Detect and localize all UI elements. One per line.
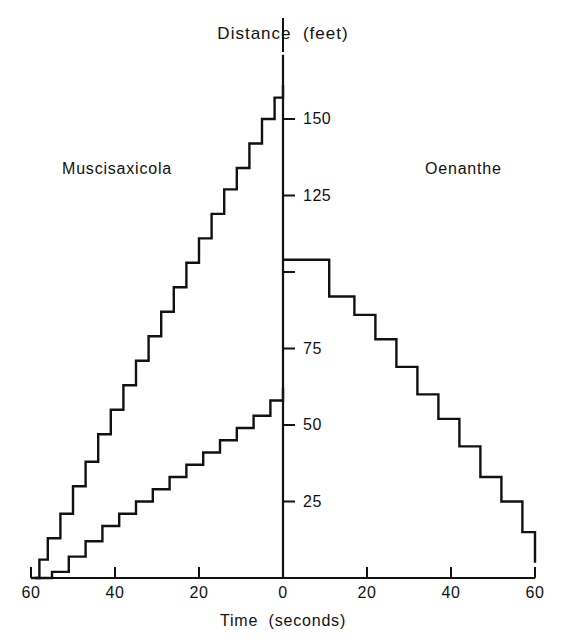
x-tick-label: 0 <box>278 584 287 602</box>
series-line <box>283 260 535 563</box>
chart-figure: Distance (feet) Muscisaxicola Oenanthe 6… <box>0 0 566 642</box>
series-line <box>31 85 283 578</box>
y-tick-label: 125 <box>303 187 331 205</box>
y-tick-label: 50 <box>303 416 322 434</box>
x-tick-label: 20 <box>358 584 377 602</box>
x-tick-label: 40 <box>442 584 461 602</box>
y-tick-label: 75 <box>303 340 322 358</box>
x-tick-label: 20 <box>190 584 209 602</box>
x-tick-label: 40 <box>106 584 125 602</box>
x-tick-label: 60 <box>526 584 545 602</box>
x-tick-label: 60 <box>22 584 41 602</box>
chart-canvas <box>0 0 566 642</box>
y-tick-label: 25 <box>303 493 322 511</box>
x-axis-title: Time (seconds) <box>0 612 566 630</box>
y-tick-label: 150 <box>303 110 331 128</box>
series-line <box>35 388 283 578</box>
